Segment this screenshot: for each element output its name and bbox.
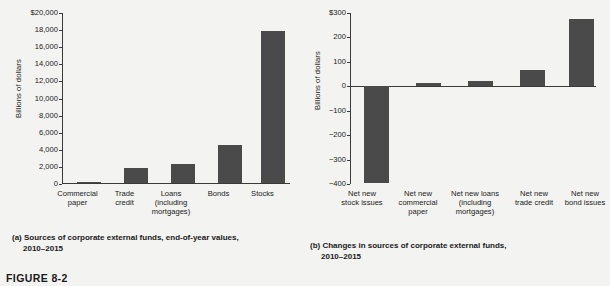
bar-loans (171, 164, 195, 183)
y-tick-b-neg100 (347, 111, 350, 112)
bar-net-new-bond-issues (569, 19, 594, 86)
y-axis-line-b (350, 13, 351, 184)
panel-b-caption: (b) Changes in sources of corporate exte… (310, 240, 600, 262)
x-category-label-net-new-loans: Net new loans (including mortgages) (444, 189, 506, 217)
y-ticklabel-a-8: 16,000 (35, 43, 58, 51)
y-tick-a-6 (59, 81, 62, 82)
x-category-label-net-new-trade-credit: Net new trade credit (508, 189, 560, 207)
x-category-label-trade-credit: Trade credit (106, 189, 143, 207)
y-tick-a-4 (59, 116, 62, 117)
panel-a-caption-line2: 2010–2015 (12, 243, 292, 254)
y-ticklabel-a-10: $20,000 (31, 9, 58, 17)
y-ticklabel-a-4: 8,000 (39, 112, 58, 120)
x-category-label-net-new-commercial-paper: Net new commercial paper (394, 189, 442, 217)
y-tick-a-5 (59, 99, 62, 100)
x-category-label-commercial-paper: Commercial paper (53, 189, 102, 207)
y-tick-a-3 (59, 133, 62, 134)
y-axis-line-a (62, 13, 63, 184)
y-tick-b-neg200 (347, 135, 350, 136)
y-ticklabel-a-7: 14,000 (35, 61, 58, 69)
y-tick-b-0 (347, 86, 350, 87)
y-ticklabel-b-200: 200 (333, 34, 346, 42)
panel-a-caption-line1: (a) Sources of corporate external funds,… (12, 233, 239, 242)
y-axis-label-b: Billions of dollars (313, 51, 322, 110)
x-category-label-net-new-stock-issues: Net new stock issues (334, 189, 390, 207)
bar-bonds (218, 145, 242, 183)
y-ticklabel-a-2: 4,000 (39, 146, 58, 154)
y-tick-a-9 (59, 30, 62, 31)
y-ticklabel-b-neg400: −400 (329, 180, 346, 188)
y-tick-a-7 (59, 64, 62, 65)
y-ticklabel-a-1: 2,000 (39, 163, 58, 171)
bar-trade-credit (124, 168, 148, 183)
figure-container: Billions of dollars 0 2,000 4,000 6,000 … (0, 0, 610, 286)
y-tick-b-300 (347, 13, 350, 14)
y-axis-label-a: Billions of dollars (14, 59, 23, 118)
figure-number-label: FIGURE 8-2 (6, 272, 68, 284)
y-ticklabel-b-100: 100 (333, 58, 346, 66)
bar-commercial-paper (77, 182, 101, 183)
bar-net-new-loans (468, 81, 493, 86)
y-tick-b-200 (347, 37, 350, 38)
plot-area-b: $300 200 100 0 −100 −200 −300 −400 (350, 13, 596, 184)
bar-net-new-stock-issues (364, 86, 389, 183)
y-tick-a-0 (59, 184, 62, 185)
bar-net-new-commercial-paper (416, 83, 441, 87)
x-category-label-bonds: Bonds (200, 189, 237, 198)
y-ticklabel-b-neg200: −200 (329, 131, 346, 139)
y-tick-b-100 (347, 62, 350, 63)
chart-panel-a: Billions of dollars 0 2,000 4,000 6,000 … (0, 0, 302, 286)
bar-net-new-trade-credit (520, 70, 545, 86)
y-ticklabel-a-9: 18,000 (35, 26, 58, 34)
bar-stocks (261, 31, 285, 183)
y-tick-a-2 (59, 150, 62, 151)
panel-a-caption: (a) Sources of corporate external funds,… (12, 232, 292, 254)
plot-area-a: 0 2,000 4,000 6,000 8,000 10,000 12,000 … (62, 13, 290, 184)
y-ticklabel-a-3: 6,000 (39, 129, 58, 137)
y-ticklabel-b-neg300: −300 (329, 156, 346, 164)
y-ticklabel-a-5: 10,000 (35, 95, 58, 103)
y-tick-b-neg300 (347, 160, 350, 161)
x-category-label-loans: Loans (including mortgages) (145, 189, 197, 217)
y-ticklabel-a-6: 12,000 (35, 78, 58, 86)
chart-panel-b: Billions of dollars $300 200 100 0 −100 … (302, 0, 610, 286)
x-axis-line-a (62, 183, 290, 184)
y-ticklabel-b-neg100: −100 (329, 107, 346, 115)
panel-b-caption-line2: 2010–2015 (310, 251, 600, 262)
y-ticklabel-b-0: 0 (342, 83, 346, 91)
y-tick-b-neg400 (347, 184, 350, 185)
panel-b-caption-line1: (b) Changes in sources of corporate exte… (310, 241, 506, 250)
y-tick-a-10 (59, 13, 62, 14)
x-category-label-net-new-bond-issues: Net new bond issues (560, 189, 610, 207)
y-tick-a-8 (59, 47, 62, 48)
x-category-label-stocks: Stocks (243, 189, 282, 198)
y-tick-a-1 (59, 167, 62, 168)
y-ticklabel-b-300: $300 (329, 9, 346, 17)
y-ticklabel-a-0: 0 (54, 180, 58, 188)
